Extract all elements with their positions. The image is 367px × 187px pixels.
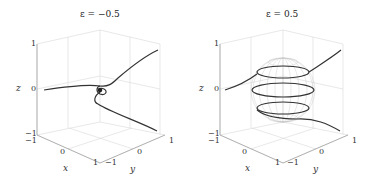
y-tick-1: 1 bbox=[352, 137, 357, 145]
plot-panel-eps-neg: ε = −0.5 1 0 −1 z −1 0 1 x −1 0 1 y bbox=[0, 0, 183, 187]
plot-3d-canvas bbox=[0, 0, 183, 187]
y-axis-label: y bbox=[313, 165, 318, 174]
x-tick-neg1: −1 bbox=[208, 137, 220, 145]
y-axis-label: y bbox=[130, 165, 135, 174]
plot-title: ε = −0.5 bbox=[80, 10, 120, 19]
x-tick-1: 1 bbox=[93, 159, 98, 167]
plot-title: ε = 0.5 bbox=[266, 10, 298, 19]
y-tick-neg1: −1 bbox=[105, 159, 117, 167]
x-axis-label: x bbox=[63, 164, 68, 173]
z-tick-0: 0 bbox=[31, 85, 36, 93]
y-tick-0: 0 bbox=[319, 148, 324, 156]
x-tick-neg1: −1 bbox=[25, 137, 37, 145]
z-tick-0: 0 bbox=[214, 85, 219, 93]
x-axis-label: x bbox=[245, 164, 250, 173]
fixed-point-knot bbox=[98, 88, 103, 93]
axis-lines bbox=[220, 44, 348, 163]
z-tick-1: 1 bbox=[31, 40, 36, 48]
axis-lines bbox=[37, 44, 165, 163]
plot-panel-eps-pos: ε = 0.5 1 0 −1 z −1 0 1 x −1 0 1 y bbox=[183, 0, 366, 187]
z-tick-1: 1 bbox=[214, 40, 219, 48]
y-tick-0: 0 bbox=[137, 148, 142, 156]
y-tick-1: 1 bbox=[169, 137, 174, 145]
z-axis-label: z bbox=[16, 84, 21, 93]
x-tick-0: 0 bbox=[60, 148, 65, 156]
y-tick-neg1: −1 bbox=[287, 159, 299, 167]
x-tick-0: 0 bbox=[242, 148, 247, 156]
z-axis-label: z bbox=[199, 84, 204, 93]
x-tick-1: 1 bbox=[275, 159, 280, 167]
